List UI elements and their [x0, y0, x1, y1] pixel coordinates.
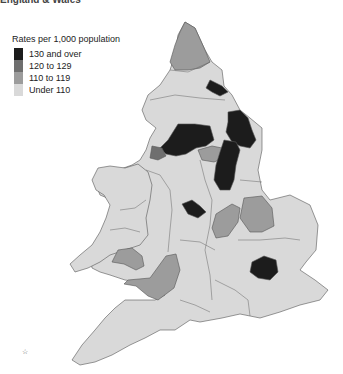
legend-item-110-to-119: 110 to 119 — [12, 72, 120, 84]
legend-item-120-to-129: 120 to 129 — [12, 60, 120, 72]
legend-swatch — [14, 48, 23, 60]
legend: Rates per 1,000 population 130 and over … — [12, 34, 120, 96]
compass-mark-icon: ☆ — [22, 348, 28, 356]
legend-label: 110 to 119 — [29, 73, 70, 83]
legend-swatch — [14, 72, 23, 84]
legend-label: Under 110 — [29, 85, 70, 95]
legend-label: 120 to 129 — [29, 61, 72, 71]
legend-item-under-110: Under 110 — [12, 84, 120, 96]
legend-item-130-and-over: 130 and over — [12, 48, 120, 60]
legend-swatch — [14, 60, 23, 72]
legend-title: Rates per 1,000 population — [12, 34, 120, 44]
legend-swatch — [14, 84, 23, 96]
legend-label: 130 and over — [29, 49, 82, 59]
region-northumberland — [170, 22, 210, 70]
